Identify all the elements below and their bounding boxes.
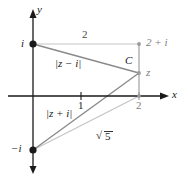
point-label-minus-i: −i (11, 143, 21, 154)
point-marker-two (137, 94, 141, 98)
figure-canvas (0, 0, 188, 176)
x-axis-label: x (172, 89, 177, 100)
point-marker-minus-i (29, 146, 36, 153)
y-axis-arrow-up-icon (30, 9, 37, 18)
tick-label-two: 2 (136, 100, 142, 111)
complex-plane-figure: x y i −i 2 + i z 1 2 2 C |z − i| |z + i|… (0, 0, 188, 176)
segment-label-top-length: 2 (82, 29, 88, 40)
y-axis-label: y (37, 4, 42, 15)
segment-label-z-minus-i: |z − i| (55, 58, 81, 69)
point-marker-z (137, 71, 141, 75)
point-marker-two-plus-i (137, 42, 141, 46)
radical-sign-icon: √ (96, 130, 102, 141)
segment-label-z-plus-i: |z + i| (46, 108, 72, 119)
point-label-z: z (146, 67, 150, 78)
point-marker-i (29, 40, 36, 47)
point-label-two-plus-i: 2 + i (146, 37, 167, 48)
tick-label-one: 1 (78, 100, 84, 111)
y-axis-arrow-down-icon (30, 166, 37, 174)
segment-label-contour-c: C (125, 55, 132, 66)
x-axis-arrow-icon (160, 93, 169, 100)
segment-z-minus-i (33, 44, 139, 73)
segment-hypotenuse (33, 96, 139, 150)
point-label-i: i (21, 38, 24, 49)
segment-label-hypotenuse: 5 (105, 131, 111, 142)
